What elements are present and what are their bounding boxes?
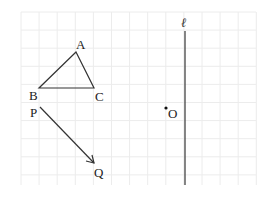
label-p: P	[30, 105, 37, 120]
label-c: C	[95, 89, 104, 104]
vector-pq	[40, 107, 94, 163]
label-l: ℓ	[181, 15, 187, 30]
label-q: Q	[94, 165, 104, 180]
triangle-abc	[39, 52, 94, 88]
label-o: O	[168, 106, 177, 121]
grid	[21, 12, 256, 185]
label-b: B	[29, 88, 38, 103]
label-a: A	[76, 37, 86, 52]
geometry-figure: A B C P Q ℓ O	[0, 0, 271, 197]
